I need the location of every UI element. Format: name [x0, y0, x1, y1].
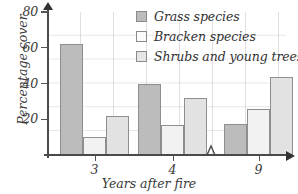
- legend-label: Bracken species: [154, 29, 256, 44]
- x-axis-arrow-icon: [286, 151, 295, 161]
- y-tick: [41, 11, 48, 12]
- legend-item-shrubs: Shrubs and young trees: [136, 48, 298, 65]
- bar-chart: 20406080 349 Percentage cover Years afte…: [0, 0, 298, 194]
- legend-label: Shrubs and young trees: [154, 49, 298, 64]
- x-tick-label: 4: [158, 162, 188, 177]
- legend-swatch-icon: [136, 31, 147, 42]
- bar: [270, 77, 293, 155]
- y-tick: [41, 83, 48, 84]
- y-axis-title: Percentage cover: [15, 0, 30, 140]
- legend: Grass species Bracken species Shrubs and…: [136, 8, 298, 65]
- bar: [161, 125, 184, 155]
- bar: [83, 137, 106, 155]
- x-axis-line: [44, 154, 288, 156]
- axis-break-icon: [200, 144, 222, 157]
- bar: [138, 84, 161, 156]
- legend-item-grass: Grass species: [136, 8, 298, 25]
- y-tick: [41, 119, 48, 120]
- x-tick: [95, 155, 96, 161]
- bar: [106, 116, 129, 155]
- x-tick-label: 9: [244, 162, 274, 177]
- legend-label: Grass species: [154, 9, 240, 24]
- y-tick: [41, 47, 48, 48]
- bar: [247, 109, 270, 155]
- y-axis-arrow-icon: [43, 2, 53, 10]
- x-tick-label: 3: [80, 162, 110, 177]
- x-tick: [259, 155, 260, 161]
- legend-swatch-icon: [136, 51, 147, 62]
- legend-swatch-icon: [136, 11, 147, 22]
- x-axis-title: Years after fire: [0, 176, 298, 191]
- bar: [224, 124, 247, 155]
- x-tick: [173, 155, 174, 161]
- legend-item-bracken: Bracken species: [136, 28, 298, 45]
- bar: [60, 44, 83, 155]
